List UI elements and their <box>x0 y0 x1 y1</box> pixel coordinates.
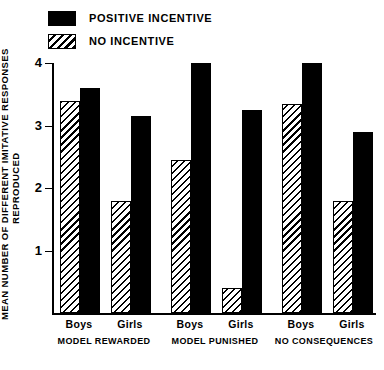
bar-model-rewarded-boys-positive-incentive <box>80 88 100 313</box>
x-sublabel-no-consequences-boys: Boys <box>276 318 326 330</box>
bar-model-punished-girls-positive-incentive <box>242 110 262 313</box>
x-group-label-model-rewarded: MODEL REWARDED <box>42 336 166 346</box>
legend-label-no-incentive: NO INCENTIVE <box>89 35 174 47</box>
chart-legend: POSITIVE INCENTIVE NO INCENTIVE <box>48 8 298 54</box>
bar-no-consequences-girls-no-incentive <box>333 201 353 314</box>
legend-label-positive-incentive: POSITIVE INCENTIVE <box>89 12 212 24</box>
bar-no-consequences-boys-positive-incentive <box>302 63 322 313</box>
x-sublabel-model-rewarded-girls: Girls <box>105 318 155 330</box>
bar-model-punished-boys-positive-incentive <box>191 63 211 313</box>
y-tick-2: 2 <box>45 188 53 189</box>
bar-model-punished-girls-no-incentive <box>222 288 242 313</box>
x-group-label-model-punished: MODEL PUNISHED <box>153 336 277 346</box>
y-tick-label-2: 2 <box>35 180 42 196</box>
y-tick-label-3: 3 <box>35 118 42 134</box>
legend-item-positive-incentive: POSITIVE INCENTIVE <box>48 8 298 28</box>
x-sublabel-model-punished-girls: Girls <box>216 318 266 330</box>
diagonal-hatch-swatch-icon <box>48 34 76 49</box>
bar-model-rewarded-girls-no-incentive <box>111 201 131 314</box>
x-sublabel-model-rewarded-boys: Boys <box>54 318 104 330</box>
y-tick-3: 3 <box>45 126 53 127</box>
y-tick-label-1: 1 <box>35 243 42 259</box>
bar-model-rewarded-boys-no-incentive <box>60 101 80 314</box>
y-axis-title-line1: MEAN NUMBER OF DIFFERENT IMITATIVE RESPO… <box>0 48 10 320</box>
bar-model-rewarded-girls-positive-incentive <box>131 116 151 313</box>
y-tick-4: 4 <box>45 63 53 64</box>
bar-no-consequences-boys-no-incentive <box>282 104 302 313</box>
x-group-label-no-consequences: NO CONSEQUENCES <box>262 336 384 346</box>
bar-chart-figure: POSITIVE INCENTIVE NO INCENTIVE MEAN NUM… <box>0 0 384 370</box>
legend-item-no-incentive: NO INCENTIVE <box>48 31 298 51</box>
y-axis-title: MEAN NUMBER OF DIFFERENT IMITATIVE RESPO… <box>0 40 30 320</box>
x-sublabel-no-consequences-girls: Girls <box>327 318 377 330</box>
y-tick-1: 1 <box>45 251 53 252</box>
y-axis-title-line2: REPRODUCED <box>10 152 21 224</box>
bar-model-punished-boys-no-incentive <box>171 160 191 313</box>
x-sublabel-model-punished-boys: Boys <box>165 318 215 330</box>
bar-no-consequences-girls-positive-incentive <box>353 132 373 313</box>
y-tick-label-4: 4 <box>35 55 42 71</box>
plot-area: 4 3 2 1 <box>52 63 376 315</box>
solid-black-swatch-icon <box>48 11 76 26</box>
